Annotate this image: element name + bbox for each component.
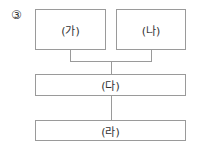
option-number-marker: ③	[11, 8, 22, 22]
box-na-label: (나)	[142, 22, 161, 38]
box-na: (나)	[116, 9, 186, 50]
box-da: (다)	[35, 74, 186, 96]
box-ga: (가)	[35, 9, 106, 50]
connector-da-to-ra	[111, 96, 112, 120]
box-da-label: (다)	[101, 77, 120, 93]
box-ra: (라)	[35, 120, 186, 141]
connector-to-da	[111, 61, 112, 74]
box-ra-label: (라)	[101, 123, 120, 139]
box-ga-label: (가)	[61, 22, 80, 38]
